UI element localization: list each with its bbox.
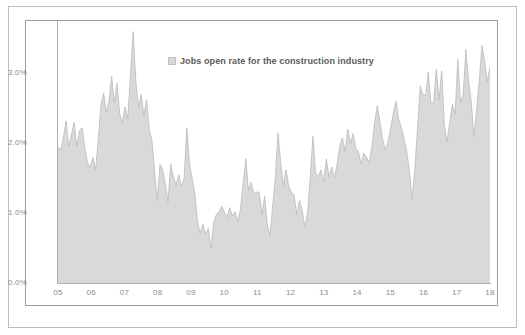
x-tick-label: 06 bbox=[87, 288, 96, 297]
legend-entry-label: Jobs open rate for the construction indu… bbox=[180, 56, 374, 66]
x-tick-label: 18 bbox=[485, 288, 494, 297]
y-tick-label: 2.0% bbox=[8, 138, 54, 147]
x-tick-label: 08 bbox=[153, 288, 162, 297]
y-tick-label: 3.0% bbox=[8, 68, 54, 77]
x-axis-tick-labels: 0506070809101112131415161718 bbox=[0, 288, 525, 306]
x-tick-label: 12 bbox=[286, 288, 295, 297]
x-tick-label: 11 bbox=[253, 288, 262, 297]
x-tick-label: 05 bbox=[53, 288, 62, 297]
x-tick-label: 07 bbox=[120, 288, 129, 297]
legend-color-swatch-icon bbox=[168, 57, 176, 65]
y-tick-label: 0.0% bbox=[8, 278, 54, 287]
chart-figure: 0.0%1.0%2.0%3.0% 05060708091011121314151… bbox=[0, 0, 525, 335]
area-fill-path bbox=[58, 31, 490, 283]
y-axis-tick-labels: 0.0%1.0%2.0%3.0% bbox=[4, 0, 54, 335]
x-tick-label: 14 bbox=[352, 288, 361, 297]
y-tick-label: 1.0% bbox=[8, 208, 54, 217]
x-tick-label: 09 bbox=[186, 288, 195, 297]
chart-legend: Jobs open rate for the construction indu… bbox=[168, 56, 374, 66]
x-axis-line bbox=[57, 283, 491, 284]
x-tick-label: 13 bbox=[319, 288, 328, 297]
x-tick-label: 17 bbox=[452, 288, 461, 297]
x-tick-label: 16 bbox=[419, 288, 428, 297]
x-tick-label: 15 bbox=[386, 288, 395, 297]
x-tick-label: 10 bbox=[219, 288, 228, 297]
